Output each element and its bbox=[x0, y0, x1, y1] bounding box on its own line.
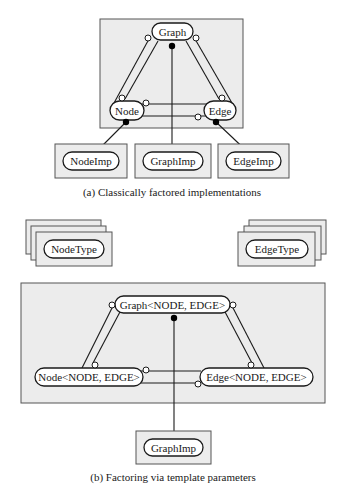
open-circle-icon bbox=[92, 362, 98, 368]
caption-a: (a) Classically factored implementations bbox=[83, 186, 261, 199]
edgetype-label: EdgeType bbox=[255, 243, 300, 255]
open-circle-icon bbox=[109, 302, 115, 308]
nodeimp-label: NodeImp bbox=[70, 155, 112, 167]
open-circle-icon bbox=[195, 114, 201, 120]
edge-label: Edge bbox=[209, 105, 232, 117]
figure-b: NodeType EdgeType Graph<NODE, EDGE> Node… bbox=[21, 220, 326, 484]
edgetype-stack: EdgeType bbox=[238, 220, 326, 266]
nodetype-label: NodeType bbox=[51, 243, 97, 255]
filled-dot-icon bbox=[169, 43, 175, 49]
open-circle-icon bbox=[143, 367, 149, 373]
open-circle-icon bbox=[119, 95, 125, 101]
graph-template-label: Graph<NODE, EDGE> bbox=[120, 299, 225, 311]
nodetype-stack: NodeType bbox=[26, 220, 112, 266]
open-circle-icon bbox=[230, 302, 236, 308]
open-circle-icon bbox=[145, 35, 151, 41]
filled-dot-icon bbox=[213, 119, 219, 125]
diagram-canvas: Graph Node Edge NodeImp GraphImp EdgeImp… bbox=[0, 0, 344, 497]
open-circle-icon bbox=[219, 95, 225, 101]
open-circle-icon bbox=[248, 362, 254, 368]
graphimp-label: GraphImp bbox=[150, 155, 196, 167]
caption-b: (b) Factoring via template parameters bbox=[90, 471, 256, 484]
node-label: Node bbox=[115, 105, 139, 117]
node-template-label: Node<NODE, EDGE> bbox=[38, 371, 140, 383]
graphimp-label-b: GraphImp bbox=[151, 442, 197, 454]
filled-dot-icon bbox=[171, 315, 177, 321]
open-circle-icon bbox=[143, 100, 149, 106]
open-circle-icon bbox=[195, 381, 201, 387]
graph-label: Graph bbox=[159, 26, 187, 38]
open-circle-icon bbox=[193, 35, 199, 41]
edge-template-label: Edge<NODE, EDGE> bbox=[206, 371, 306, 383]
filled-dot-icon bbox=[123, 119, 129, 125]
figure-a: Graph Node Edge NodeImp GraphImp EdgeImp… bbox=[55, 19, 289, 199]
edgeimp-label: EdgeImp bbox=[233, 155, 274, 167]
